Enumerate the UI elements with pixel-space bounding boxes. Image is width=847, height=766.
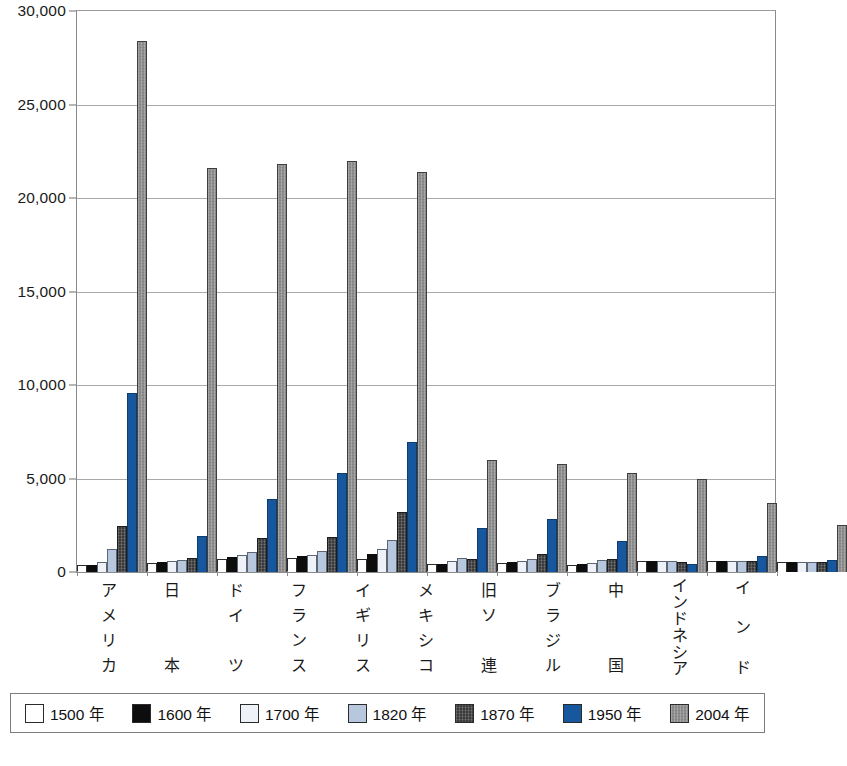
bar <box>697 479 707 573</box>
bar <box>287 558 297 572</box>
bar <box>157 562 167 572</box>
bar <box>257 538 267 572</box>
bar <box>627 473 637 572</box>
bar <box>777 562 787 572</box>
chart-legend: 1500 年1600 年1700 年1820 年1870 年1950 年2004… <box>10 693 765 733</box>
bar-group <box>637 11 707 572</box>
bar <box>677 562 687 572</box>
x-axis-category-label: イ ン ド <box>712 578 775 683</box>
x-axis-tick-mark <box>567 571 568 576</box>
bar <box>227 557 237 572</box>
bar <box>507 562 517 572</box>
category-label-char <box>614 603 618 628</box>
x-axis-tick-mark <box>777 571 778 576</box>
x-axis-tick-mark <box>427 571 428 576</box>
legend-item[interactable]: 1600 年 <box>132 702 212 724</box>
bar <box>307 555 317 572</box>
y-axis-tick-label: 25,000 <box>17 96 66 114</box>
x-axis-category-label: ブラジル <box>521 578 584 683</box>
bar <box>477 528 487 572</box>
bar <box>267 499 277 572</box>
legend-item[interactable]: 1950 年 <box>563 702 643 724</box>
bar <box>567 565 577 572</box>
bar <box>237 555 247 572</box>
bar <box>397 512 407 572</box>
legend-item-label: 1950 年 <box>588 702 643 724</box>
category-label-char: ラ <box>291 603 307 628</box>
y-axis-tick-label: 10,000 <box>17 376 66 394</box>
category-label-char: ン <box>672 595 688 612</box>
y-axis-tick-label: 5,000 <box>26 470 66 488</box>
x-axis-tick-mark <box>77 571 78 576</box>
x-axis-tick-mark <box>357 571 358 576</box>
bar <box>377 549 387 572</box>
y-axis: 05,00010,00015,00020,00025,00030,000 <box>0 10 76 573</box>
category-label-char: ド <box>228 578 244 603</box>
bar <box>517 561 527 572</box>
bar <box>347 161 357 572</box>
bar-group <box>707 11 777 572</box>
bar <box>557 464 567 572</box>
bar <box>547 519 557 572</box>
x-axis-category-label: アメリカ <box>77 578 140 683</box>
bar <box>197 536 207 572</box>
bar <box>757 556 767 572</box>
bar <box>727 561 737 572</box>
bar <box>277 164 287 572</box>
bar <box>147 563 157 572</box>
bar <box>597 560 607 572</box>
bar <box>117 526 127 572</box>
category-label-char: シ <box>418 628 434 653</box>
category-label-char: 旧 <box>481 578 497 603</box>
category-label-char: メ <box>418 578 434 603</box>
legend-swatch-1500 <box>25 704 44 723</box>
bar <box>77 565 87 572</box>
legend-item[interactable]: 1700 年 <box>240 702 320 724</box>
category-label-char: キ <box>418 603 434 628</box>
category-label-char: ラ <box>545 603 561 628</box>
legend-item[interactable]: 1820 年 <box>348 702 428 724</box>
category-label-char: 日 <box>164 578 180 603</box>
bar <box>787 562 797 572</box>
bar <box>447 561 457 572</box>
bar <box>587 563 597 572</box>
category-label-char: ア <box>101 578 117 603</box>
x-axis-tick-mark <box>147 571 148 576</box>
bar <box>797 562 807 572</box>
bar <box>717 561 727 572</box>
x-axis-tick-mark <box>707 571 708 576</box>
category-label-char: ン <box>735 618 751 638</box>
x-axis-category-label: イギリス <box>331 578 394 683</box>
bar <box>837 525 847 572</box>
legend-swatch-1870 <box>455 704 474 723</box>
legend-item[interactable]: 1870 年 <box>455 702 535 724</box>
bar <box>827 560 837 572</box>
bar <box>357 559 367 572</box>
bar <box>817 562 827 572</box>
bar <box>767 503 777 572</box>
x-axis-category-label: フランス <box>267 578 330 683</box>
bar <box>97 562 107 572</box>
category-label-char: 中 <box>608 578 624 603</box>
bar <box>537 554 547 572</box>
bar <box>497 563 507 572</box>
bar <box>427 564 437 572</box>
category-label-char: ス <box>355 653 371 678</box>
category-label-char: ツ <box>228 653 244 678</box>
legend-swatch-2004 <box>670 704 689 723</box>
legend-item[interactable]: 1500 年 <box>25 702 105 724</box>
x-axis-category-label: インドネシア <box>648 578 711 683</box>
bar-group <box>287 11 357 572</box>
y-axis-tick-label: 20,000 <box>17 189 66 207</box>
bar <box>487 460 497 572</box>
bar <box>687 564 697 572</box>
category-label-char: ア <box>672 661 688 678</box>
bar <box>747 561 757 572</box>
bar-groups <box>77 11 775 572</box>
bar-group <box>217 11 287 572</box>
legend-item[interactable]: 2004 年 <box>670 702 750 724</box>
bar-group <box>357 11 427 572</box>
category-label-char: イ <box>228 603 244 628</box>
legend-swatch-1950 <box>563 704 582 723</box>
